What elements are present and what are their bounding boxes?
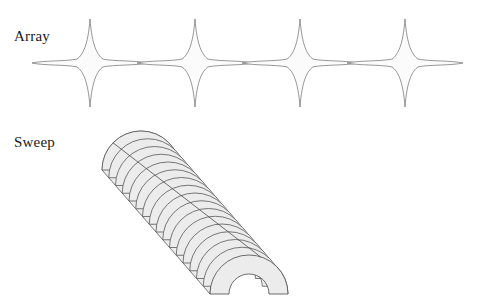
figure-canvas	[0, 0, 479, 308]
array-label: Array	[14, 29, 50, 44]
array-star-3	[242, 19, 358, 107]
array-star-2	[137, 19, 253, 107]
array-diagram	[32, 19, 463, 107]
sweep-diagram	[102, 131, 288, 294]
sweep-label: Sweep	[14, 135, 55, 150]
array-star-4	[347, 19, 463, 107]
